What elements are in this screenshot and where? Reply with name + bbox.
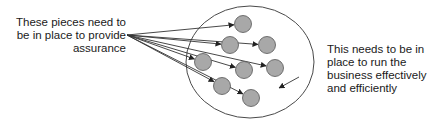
assurance-piece-2 bbox=[222, 37, 239, 54]
assurance-piece-6 bbox=[267, 60, 284, 77]
diagram-canvas bbox=[0, 0, 431, 123]
assurance-piece-4 bbox=[195, 54, 212, 71]
assurance-piece-8 bbox=[243, 90, 260, 107]
assurance-pieces bbox=[195, 16, 284, 107]
assurance-piece-5 bbox=[236, 62, 253, 79]
arrow-to-piece-1 bbox=[127, 25, 234, 35]
right-label-pointer-arrow bbox=[279, 77, 299, 88]
assurance-piece-1 bbox=[235, 16, 252, 33]
assurance-piece-7 bbox=[214, 78, 231, 95]
assurance-piece-3 bbox=[259, 37, 276, 54]
